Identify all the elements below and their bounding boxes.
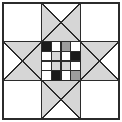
center-cell-r1c4 bbox=[71, 42, 81, 52]
center-cell-r3c1 bbox=[42, 61, 52, 71]
center-cell-r4c4 bbox=[71, 71, 81, 81]
center-cell-r2c2 bbox=[51, 51, 61, 61]
center-cell-r3c2 bbox=[51, 61, 61, 71]
center-cell-r1c3 bbox=[61, 42, 71, 52]
corner-plain-top-left bbox=[3, 3, 42, 42]
center-cell-r3c3 bbox=[61, 61, 71, 71]
quilt-block-canvas bbox=[0, 0, 122, 122]
corner-plain-top-right bbox=[80, 3, 119, 42]
center-cell-r1c1 bbox=[42, 42, 52, 52]
corner-plain-bottom-right bbox=[80, 80, 119, 119]
center-cell-r3c4 bbox=[71, 61, 81, 71]
center-cell-r2c4 bbox=[71, 51, 81, 61]
corner-plain-bottom-left bbox=[3, 80, 42, 119]
center-cell-r2c3 bbox=[61, 51, 71, 61]
center-cell-r2c1 bbox=[42, 51, 52, 61]
center-cell-r4c3 bbox=[61, 71, 71, 81]
center-cell-r4c2 bbox=[51, 71, 61, 81]
center-cell-r4c1 bbox=[42, 71, 52, 81]
quilt-block-figure bbox=[0, 0, 122, 122]
center-cell-r1c2 bbox=[51, 42, 61, 52]
